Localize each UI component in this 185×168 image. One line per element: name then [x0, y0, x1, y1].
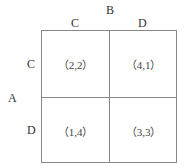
player-a-label: A — [8, 92, 17, 104]
row-strategy-d: D — [27, 124, 36, 136]
matrix-grid: （2,2） （4,1） （1,4） （3,3） — [41, 30, 177, 163]
col-strategy-d: D — [138, 17, 147, 29]
row-strategy-c: C — [27, 58, 35, 70]
payoff-cell-cd: （4,1） — [110, 31, 177, 97]
payoff-cell-cc: （2,2） — [42, 31, 109, 97]
payoff-cell-dd: （3,3） — [110, 98, 177, 164]
player-b-label: B — [106, 4, 114, 16]
payoff-cell-dc: （1,4） — [42, 98, 109, 164]
col-strategy-c: C — [71, 17, 79, 29]
